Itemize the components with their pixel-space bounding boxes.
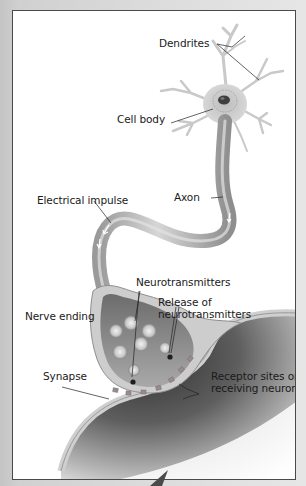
label-receptor-line1: Receptor sites on [211,370,296,382]
label-neurotransmitters: Neurotransmitters [136,276,230,288]
label-receptor-line2: receiving neuron [211,382,296,394]
label-axon: Axon [174,191,200,203]
diagram-frame: Dendrites Cell body Axon Electrical impu… [12,10,296,480]
release-point [167,354,172,359]
label-nerve-ending: Nerve ending [25,310,94,322]
label-dendrites: Dendrites [159,37,209,49]
release-point [130,379,135,384]
pointer-wedge-icon [140,470,180,486]
nucleus [218,96,230,105]
label-release-line1: Release of [158,296,211,308]
axon [99,121,229,293]
label-release-line2: neurotransmitters [158,308,251,320]
label-cell-body: Cell body [117,113,165,125]
label-synapse: Synapse [43,370,87,382]
neuron-illustration [13,11,296,480]
label-electrical-impulse: Electrical impulse [37,194,128,206]
